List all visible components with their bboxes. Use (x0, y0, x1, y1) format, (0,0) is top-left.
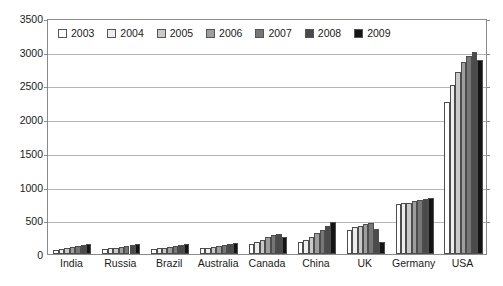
y-tick-label: 1500 (0, 149, 43, 160)
y-tick-label: 1000 (0, 182, 43, 193)
x-axis: IndiaRussiaBrazilAustraliaCanadaChinaUKG… (47, 258, 487, 280)
x-tick-label: Brazil (156, 258, 182, 269)
bar-group (347, 20, 385, 254)
x-tick-label: Germany (392, 258, 435, 269)
legend-label: 2007 (268, 28, 291, 39)
legend-label: 2009 (367, 28, 390, 39)
bar (86, 244, 91, 254)
legend-label: 2005 (170, 28, 193, 39)
legend-item-2004[interactable]: 2004 (107, 28, 143, 39)
x-tick-label: UK (357, 258, 372, 269)
bar-group (200, 20, 238, 254)
y-tick-label: 3000 (0, 47, 43, 58)
y-tick-label: 3500 (0, 14, 43, 25)
x-tick-label: USA (452, 258, 474, 269)
bar (282, 237, 287, 254)
legend-item-2009[interactable]: 2009 (354, 28, 390, 39)
x-tick-label: Canada (249, 258, 286, 269)
y-tick-mark-right (486, 189, 490, 190)
bar-group (298, 20, 336, 254)
bar-group (249, 20, 287, 254)
legend-swatch-icon (157, 29, 166, 38)
y-tick-mark-right (486, 121, 490, 122)
legend-swatch-icon (107, 29, 116, 38)
y-tick-label: 0 (0, 250, 43, 261)
bar (477, 60, 482, 254)
chart-legend: 2003200420052006200720082009 (58, 28, 391, 39)
bars-layer (48, 20, 486, 254)
bar-group (151, 20, 189, 254)
y-tick-label: 500 (0, 216, 43, 227)
y-tick-label: 2000 (0, 115, 43, 126)
bar-group (444, 20, 482, 254)
x-tick-label: India (60, 258, 83, 269)
y-axis: 0500100015002000250030003500 (0, 0, 43, 286)
y-tick-mark-right (486, 87, 490, 88)
bar-group (396, 20, 434, 254)
legend-swatch-icon (58, 29, 67, 38)
legend-item-2007[interactable]: 2007 (255, 28, 291, 39)
x-tick-label: Australia (198, 258, 239, 269)
bar-chart: 0500100015002000250030003500 IndiaRussia… (0, 0, 503, 286)
legend-label: 2004 (120, 28, 143, 39)
plot-area (47, 19, 487, 255)
bar (135, 244, 140, 254)
bar (428, 198, 433, 254)
y-tick-mark-right (486, 54, 490, 55)
legend-swatch-icon (206, 29, 215, 38)
legend-item-2008[interactable]: 2008 (305, 28, 341, 39)
bar (233, 243, 238, 254)
y-tick-mark-right (486, 155, 490, 156)
y-tick-label: 2500 (0, 81, 43, 92)
x-tick-label: China (302, 258, 329, 269)
y-tick-mark-right (486, 20, 490, 21)
legend-swatch-icon (255, 29, 264, 38)
x-tick-label: Russia (104, 258, 136, 269)
bar (184, 244, 189, 254)
bar-group (53, 20, 91, 254)
bar (330, 222, 335, 254)
legend-label: 2003 (71, 28, 94, 39)
legend-item-2005[interactable]: 2005 (157, 28, 193, 39)
legend-item-2006[interactable]: 2006 (206, 28, 242, 39)
legend-swatch-icon (305, 29, 314, 38)
legend-swatch-icon (354, 29, 363, 38)
bar-group (102, 20, 140, 254)
y-tick-mark-right (486, 222, 490, 223)
bar (379, 242, 384, 254)
legend-label: 2008 (318, 28, 341, 39)
legend-item-2003[interactable]: 2003 (58, 28, 94, 39)
legend-label: 2006 (219, 28, 242, 39)
